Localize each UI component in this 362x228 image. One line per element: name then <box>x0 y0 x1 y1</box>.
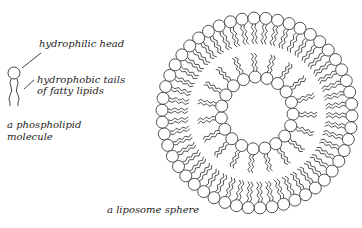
lipid-head-icon <box>156 116 168 128</box>
lipid-tail-icon <box>173 134 191 142</box>
lipid-tail-icon <box>261 24 264 44</box>
lipid-head-icon <box>249 71 261 83</box>
lipid-head-icon <box>342 133 354 145</box>
lipid-tail-icon <box>255 24 258 44</box>
lipid-head-icon <box>272 14 284 26</box>
lipid-tail-icon <box>260 182 263 202</box>
lipid-head-icon <box>345 122 357 134</box>
lipid-head-icon <box>242 202 254 214</box>
lipid-head-icon <box>219 196 231 208</box>
lipid-tail-icon <box>181 66 199 75</box>
label-phospholipid: a phospholipid <box>7 119 81 130</box>
lipid-tail-icon <box>244 25 249 45</box>
lipid-tail-icon <box>315 150 333 159</box>
label-molecule: molecule <box>7 131 53 142</box>
lipid-tail-icon <box>299 115 317 118</box>
lipid-head-icon <box>216 100 228 112</box>
hydrophilic-head-icon <box>8 67 20 79</box>
lipid-tail-icon <box>170 126 189 132</box>
lipid-tail-icon <box>205 133 221 142</box>
lipid-head-icon <box>336 64 348 76</box>
lipid-tail-icon <box>169 98 189 102</box>
lipid-tail-icon <box>168 117 188 121</box>
lipid-head-icon <box>261 72 273 84</box>
label-liposome-sphere: a liposome sphere <box>107 204 199 215</box>
lipid-tail-icon <box>325 95 344 101</box>
lipid-head-icon <box>166 150 178 162</box>
lipid-head-icon <box>285 96 297 108</box>
lipid-head-icon <box>338 145 350 157</box>
lipid-tail-icon <box>270 55 275 73</box>
lipid-head-icon <box>266 201 278 213</box>
lipid-head-icon <box>230 200 242 212</box>
lipid-tail-icon <box>265 182 270 202</box>
lipid-tail-icon <box>251 155 254 173</box>
label-fatty-lipids: of fatty lipids <box>37 85 104 96</box>
lipid-head-icon <box>162 139 174 151</box>
lipid-head-icon <box>215 112 227 124</box>
lipid-head-icon <box>160 81 172 93</box>
lipid-tail-icon <box>233 152 240 169</box>
lipid-head-icon <box>278 198 290 210</box>
lipid-head-icon <box>254 202 266 214</box>
tails-leader-line <box>24 80 34 89</box>
lipid-head-icon <box>156 104 168 116</box>
lipid-tail-icon <box>177 142 194 152</box>
lipid-tail-icon <box>215 173 224 191</box>
lipid-tail-icon <box>282 177 291 195</box>
lipid-tail-icon <box>320 74 337 84</box>
lipid-tail-icon <box>270 26 275 46</box>
lipid-tail-icon <box>247 182 250 202</box>
lipid-tail-icon <box>195 49 210 62</box>
lipid-head-icon <box>344 86 356 98</box>
liposome-diagram: hydrophilic head hydrophobic tails of fa… <box>0 0 362 228</box>
lipid-head-icon <box>289 194 301 206</box>
lipid-head-icon <box>164 69 176 81</box>
lipid-tail-icon <box>319 142 338 150</box>
lipid-head-icon <box>158 128 170 140</box>
label-hydrophilic-head: hydrophilic head <box>39 38 124 49</box>
lipid-tail-icon <box>252 24 255 44</box>
lipid-tail-icon <box>273 27 278 47</box>
lipid-head-icon <box>213 20 225 32</box>
lipid-tail-icon <box>198 120 216 124</box>
lipid-tail-icon <box>168 111 188 114</box>
lipid-tail-icon <box>304 164 319 177</box>
lipid-tail-icon <box>236 180 241 200</box>
lipid-tail-icon <box>251 53 254 71</box>
label-hydrophobic-tails: hydrophobic tails <box>37 74 125 85</box>
hydrophobic-tail-icon <box>16 79 19 106</box>
lipid-tail-icon <box>239 181 244 201</box>
lipid-tail-icon <box>257 182 260 202</box>
liposome-sphere-icon <box>156 12 358 214</box>
lipid-head-icon <box>224 16 236 28</box>
lipid-head-icon <box>260 12 272 24</box>
lipid-tail-icon <box>176 76 195 84</box>
lipid-tail-icon <box>323 84 341 92</box>
lipid-head-icon <box>219 123 231 135</box>
lipid-head-icon <box>300 189 312 201</box>
lipid-head-icon <box>247 143 259 155</box>
lipid-tail-icon <box>299 112 317 115</box>
lipid-tail-icon <box>326 116 346 119</box>
lipid-tail-icon <box>280 62 290 77</box>
lipid-head-icon <box>346 98 358 110</box>
lipid-head-icon <box>346 110 358 122</box>
lipid-head-icon <box>283 18 295 30</box>
lipid-tail-icon <box>297 126 314 132</box>
lipid-tail-icon <box>223 31 232 49</box>
lipid-tail-icon <box>267 154 272 171</box>
lipid-tail-icon <box>290 34 299 52</box>
lipid-tail-icon <box>198 102 216 106</box>
lipid-head-icon <box>236 13 248 25</box>
lipid-tail-icon <box>248 155 251 173</box>
lipid-tail-icon <box>232 58 240 74</box>
lipid-tail-icon <box>250 182 253 202</box>
lipid-head-icon <box>238 74 250 86</box>
lipid-head-icon <box>248 12 260 24</box>
lipid-tail-icon <box>204 85 220 94</box>
lipid-head-icon <box>157 92 169 104</box>
lipid-tail-icon <box>282 30 289 49</box>
lipid-head-icon <box>203 25 215 37</box>
lipid-tail-icon <box>326 105 346 109</box>
